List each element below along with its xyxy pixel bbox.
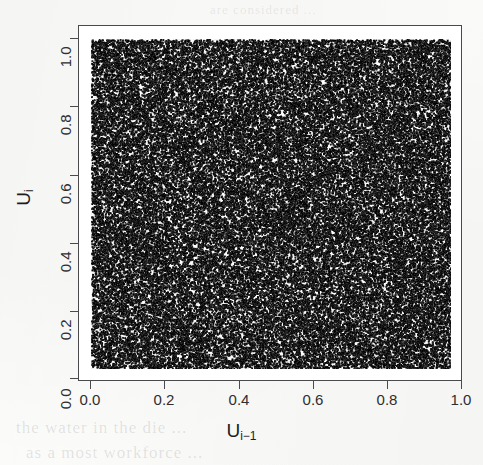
x-tick-mark-0.8	[387, 381, 388, 389]
scatter-plot-area	[91, 39, 451, 369]
y-tick-mark-0.8	[70, 106, 78, 107]
y-tick-label-5: 0.2	[58, 320, 75, 341]
x-tick-mark-0.0	[90, 381, 91, 389]
scatter-points-layer	[91, 39, 451, 369]
x-tick-label-5: 0.8	[367, 391, 407, 408]
x-axis-title-subscript: i−1	[240, 429, 256, 443]
x-tick-label-6: 1.0	[441, 391, 481, 408]
x-tick-label-2: 0.2	[144, 391, 184, 408]
y-tick-label-2: 0.8	[58, 115, 75, 136]
bleed-through-text-line-2: as a most workforce ...	[26, 443, 203, 463]
x-axis-title-base: U	[226, 420, 240, 441]
figure-canvas: the water in the die ... as a most workf…	[0, 0, 483, 465]
x-tick-label-4: 0.6	[293, 391, 333, 408]
y-tick-mark-0.4	[70, 243, 78, 244]
y-tick-mark-0.2	[70, 311, 78, 312]
x-tick-label-3: 0.4	[219, 391, 259, 408]
x-tick-mark-1.0	[461, 381, 462, 389]
y-axis-title-subscript: i	[22, 189, 36, 192]
x-tick-mark-0.2	[164, 381, 165, 389]
y-tick-label-3: 0.6	[58, 184, 75, 205]
y-tick-label-4: 0.4	[58, 252, 75, 273]
x-tick-mark-0.4	[239, 381, 240, 389]
y-axis-title-base: U	[13, 192, 34, 206]
plot-frame	[78, 25, 462, 381]
y-tick-mark-1.0	[70, 38, 78, 39]
y-tick-mark-0.6	[70, 175, 78, 176]
y-axis-title: Ui	[13, 170, 36, 226]
x-tick-mark-0.6	[313, 381, 314, 389]
x-tick-label-1: 0.0	[70, 391, 110, 408]
y-tick-label-1: 1.0	[58, 47, 75, 68]
bleed-through-text-line-3: are considered ...	[210, 2, 316, 18]
x-axis-title: Ui−1	[0, 420, 483, 443]
y-tick-mark-0.0	[70, 378, 78, 379]
